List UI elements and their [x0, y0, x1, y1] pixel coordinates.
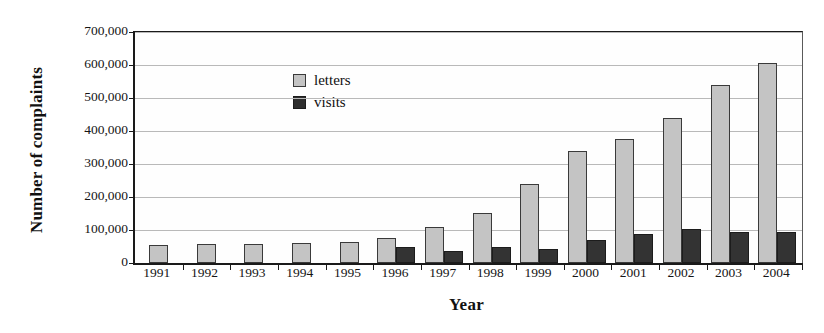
bar-letters: [425, 227, 444, 263]
y-axis-title: Number of complaints: [27, 30, 47, 270]
bar-group: [326, 32, 374, 263]
bar-letters: [149, 245, 168, 263]
x-axis-tick-label: 2003: [705, 266, 753, 280]
bar-visits: [396, 247, 415, 264]
x-axis-tick-label: 1996: [371, 266, 419, 280]
bar-letters: [711, 85, 730, 263]
bar-visits: [444, 251, 463, 263]
bar-group: [183, 32, 231, 263]
bar-group: [611, 32, 659, 263]
x-axis-tick-label: 2002: [657, 266, 705, 280]
bar-group: [135, 32, 183, 263]
x-axis-tick-label: 1999: [514, 266, 562, 280]
bar-visits: [730, 232, 749, 263]
y-axis-tick-labels: 0100,000200,000300,000400,000500,000600,…: [50, 0, 128, 333]
bar-group: [230, 32, 278, 263]
bar-letters: [568, 151, 587, 263]
bar-visits: [634, 234, 653, 263]
bar-visits: [492, 247, 511, 263]
y-axis-tick-label: 200,000: [54, 189, 128, 203]
bar-visits: [682, 229, 701, 263]
y-axis-tick-label: 0: [54, 255, 128, 269]
x-axis-tick-label: 1993: [228, 266, 276, 280]
y-axis-tick-label: 700,000: [54, 24, 128, 38]
bar-letters: [340, 242, 359, 263]
x-axis-tick-label: 2004: [752, 266, 800, 280]
bar-letters: [473, 213, 492, 263]
bar-letters: [615, 139, 634, 263]
y-axis-tick-label: 500,000: [54, 90, 128, 104]
y-axis-tick-label: 300,000: [54, 156, 128, 170]
y-axis-tick-label: 400,000: [54, 123, 128, 137]
bar-group: [278, 32, 326, 263]
bar-group: [564, 32, 612, 263]
bar-chart: Number of complaints 0100,000200,000300,…: [0, 0, 824, 333]
bar-letters: [292, 243, 311, 263]
x-axis-tick-mark: [802, 263, 803, 270]
bar-group: [373, 32, 421, 263]
bar-group: [469, 32, 517, 263]
bar-group: [707, 32, 755, 263]
bar-visits: [587, 240, 606, 263]
x-axis-tick-labels: 1991199219931994199519961997199819992000…: [133, 266, 800, 288]
bar-group: [659, 32, 707, 263]
y-axis-tick-label: 600,000: [54, 57, 128, 71]
y-axis-tick-mark: [129, 263, 135, 264]
bar-letters: [244, 244, 263, 263]
x-axis-tick-label: 1992: [181, 266, 229, 280]
bar-group: [421, 32, 469, 263]
x-axis-tick-label: 2001: [609, 266, 657, 280]
bar-group: [516, 32, 564, 263]
plot-area: letters visits: [133, 31, 803, 265]
x-axis-tick-label: 1997: [419, 266, 467, 280]
x-axis-tick-label: 2000: [562, 266, 610, 280]
bar-letters: [197, 244, 216, 263]
bar-letters: [663, 118, 682, 263]
bar-visits: [777, 232, 796, 263]
bar-group: [754, 32, 802, 263]
x-axis-tick-label: 1998: [467, 266, 515, 280]
bar-letters: [520, 184, 539, 263]
x-axis-tick-label: 1995: [324, 266, 372, 280]
bar-visits: [539, 249, 558, 263]
x-axis-tick-label: 1991: [133, 266, 181, 280]
bar-letters: [758, 63, 777, 263]
y-axis-tick-label: 100,000: [54, 222, 128, 236]
x-axis-title: Year: [133, 295, 800, 315]
bar-letters: [377, 238, 396, 263]
x-axis-tick-label: 1994: [276, 266, 324, 280]
